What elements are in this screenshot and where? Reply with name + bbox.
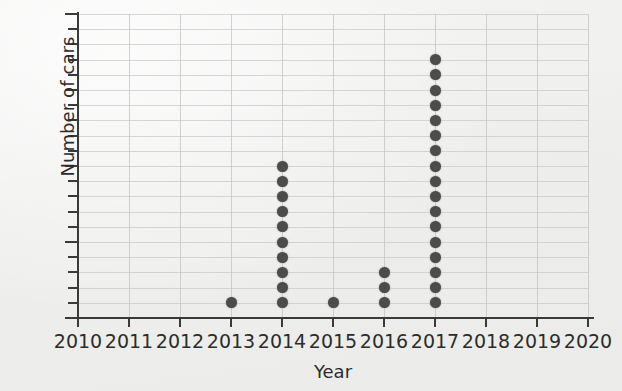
gridline-vertical [333, 14, 334, 318]
gridline-vertical [486, 14, 487, 318]
data-dot [277, 221, 288, 232]
x-axis-tick [383, 318, 385, 327]
data-dot [430, 145, 441, 156]
data-dot [226, 297, 237, 308]
y-axis-tick-minor [68, 226, 78, 228]
data-dot [277, 252, 288, 263]
data-dot [277, 282, 288, 293]
data-dot [430, 282, 441, 293]
x-axis-tick-label: 2014 [255, 330, 309, 352]
data-dot [379, 297, 390, 308]
x-axis-tick-label: 2020 [561, 330, 615, 352]
x-axis-tick [485, 318, 487, 327]
data-dot [430, 85, 441, 96]
x-axis-tick [281, 318, 283, 327]
data-dot [277, 267, 288, 278]
data-dot [430, 69, 441, 80]
data-dot [430, 237, 441, 248]
data-dot [430, 267, 441, 278]
x-axis-tick [230, 318, 232, 327]
gridline-vertical [129, 14, 130, 318]
data-dot [430, 252, 441, 263]
data-dot [277, 237, 288, 248]
y-axis-title: Number of cars [57, 32, 78, 182]
data-dot [430, 54, 441, 65]
x-axis-tick [536, 318, 538, 327]
y-axis-tick-minor [68, 195, 78, 197]
gridline-vertical [180, 14, 181, 318]
x-axis-tick-label: 2015 [306, 330, 360, 352]
data-dot [430, 297, 441, 308]
data-dot [430, 130, 441, 141]
y-axis-tick-minor [68, 211, 78, 213]
plot-area [78, 14, 588, 318]
data-dot [430, 221, 441, 232]
y-axis-tick-minor [68, 28, 78, 30]
data-dot [277, 297, 288, 308]
data-dot [328, 297, 339, 308]
y-axis-tick-major [65, 13, 78, 15]
x-axis-tick-label: 2011 [102, 330, 156, 352]
data-dot [277, 176, 288, 187]
y-axis-tick-minor [68, 256, 78, 258]
y-axis-tick-major [65, 241, 78, 243]
data-dot [430, 176, 441, 187]
x-axis-tick-label: 2016 [357, 330, 411, 352]
x-axis-tick-label: 2017 [408, 330, 462, 352]
x-axis-tick-label: 2012 [153, 330, 207, 352]
x-axis-tick-label: 2010 [51, 330, 105, 352]
data-dot [379, 282, 390, 293]
data-dot [277, 206, 288, 217]
x-axis-tick-label: 2018 [459, 330, 513, 352]
x-axis-tick-label: 2013 [204, 330, 258, 352]
y-axis-tick-minor [68, 271, 78, 273]
x-axis-tick [128, 318, 130, 327]
dot-plot-figure: 05101520 2010201120122013201420152016201… [0, 0, 622, 391]
x-axis-tick [179, 318, 181, 327]
gridline-vertical [231, 14, 232, 318]
data-dot [430, 115, 441, 126]
data-dot [379, 267, 390, 278]
data-dot [277, 191, 288, 202]
x-axis-title: Year [78, 361, 588, 382]
data-dot [277, 161, 288, 172]
y-axis-tick-minor [68, 302, 78, 304]
x-axis-tick [332, 318, 334, 327]
gridline-vertical [588, 14, 589, 318]
data-dot [430, 161, 441, 172]
data-dot [430, 191, 441, 202]
x-axis-tick [434, 318, 436, 327]
data-dot [430, 206, 441, 217]
x-axis-tick [77, 318, 79, 327]
y-axis-tick-minor [68, 287, 78, 289]
gridline-vertical [537, 14, 538, 318]
x-axis-tick [587, 318, 589, 327]
data-dot [430, 100, 441, 111]
x-axis-tick-label: 2019 [510, 330, 564, 352]
